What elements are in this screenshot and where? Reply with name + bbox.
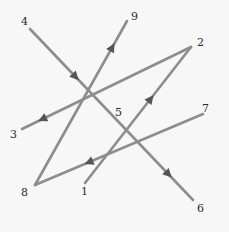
- point-label-6: 6: [197, 202, 204, 215]
- point-label-8: 8: [21, 186, 28, 199]
- point-label-5: 5: [115, 106, 122, 119]
- segment-7-to-8: [35, 114, 203, 185]
- point-label-4: 4: [21, 15, 28, 28]
- point-label-3: 3: [10, 128, 17, 141]
- point-label-1: 1: [81, 185, 88, 198]
- numbered-path-diagram: 1 2 3 4 5 6 7 8 9: [0, 0, 229, 232]
- point-label-7: 7: [202, 102, 209, 115]
- point-label-9: 9: [131, 10, 138, 23]
- point-label-2: 2: [197, 36, 204, 49]
